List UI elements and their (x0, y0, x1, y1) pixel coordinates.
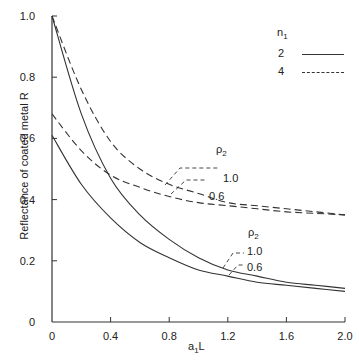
curve-solid-1 (52, 135, 345, 291)
legend-dashed-line-icon (302, 72, 344, 73)
leader-dashed-1-0 (165, 168, 220, 185)
annotations (165, 168, 244, 275)
x-tick-label: 2.0 (337, 330, 352, 342)
x-axis-label: a1L (188, 340, 205, 355)
legend-title-sub: 1 (283, 32, 287, 41)
x-label-L: L (199, 340, 205, 352)
y-tick-label: 0 (29, 316, 35, 328)
rho-dashed-1-0: 1.0 (223, 172, 238, 184)
legend: n1 2 4 (274, 26, 354, 76)
y-axis-label: Reflectance of coated metal R (18, 76, 30, 256)
legend-label-4: 4 (278, 65, 284, 77)
x-tick-label: 1.6 (279, 330, 294, 342)
legend-label-2: 2 (278, 47, 284, 59)
legend-title: n1 (277, 26, 288, 41)
legend-entry-dashed: 4 (278, 65, 354, 77)
rho-title-solid: ρ2 (248, 226, 259, 241)
rho-title-dashed: ρ2 (216, 143, 227, 158)
rho-sub: 2 (222, 149, 226, 158)
rho-sub: 2 (254, 232, 258, 241)
leader-solid-1-0 (223, 253, 244, 268)
rho-solid-0-6: 0.6 (247, 261, 262, 273)
curve-dashed-3 (52, 114, 345, 215)
x-tick-label: 0.8 (162, 330, 177, 342)
x-tick-label: 1.2 (220, 330, 235, 342)
y-tick-label: 1.0 (20, 10, 35, 22)
x-tick-label: 0.4 (103, 330, 118, 342)
rho-solid-1-0: 1.0 (247, 245, 262, 257)
leader-dashed-0-6 (171, 180, 205, 194)
y-tick-label: 0.2 (20, 255, 35, 267)
x-tick-label: 0 (49, 330, 55, 342)
legend-solid-line-icon (302, 54, 344, 55)
rho-dashed-0-6: 0.6 (209, 190, 224, 202)
legend-entry-solid: 2 (278, 47, 354, 59)
